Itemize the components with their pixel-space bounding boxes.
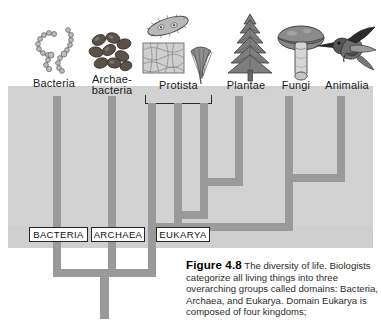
kingdom-label-plantae: Plantae <box>216 80 276 92</box>
kingdom-label-protista: Protista <box>145 80 212 92</box>
hummingbird-icon <box>314 24 378 78</box>
figure-root: Bacteria Archae- bacteria Protista Plant… <box>0 0 381 333</box>
protist-icon <box>142 12 220 84</box>
figure-number: Figure 4.8 <box>186 258 242 271</box>
limb-archaea-down <box>108 236 116 277</box>
kingdom-label-fungi: Fungi <box>272 80 320 92</box>
kingdom-label-bacteria: Bacteria <box>20 78 88 90</box>
limb-protist-2 <box>174 103 182 219</box>
domain-box-bacteria[interactable]: BACTERIA <box>29 227 88 242</box>
limb-node-opisthokont-down <box>285 174 293 231</box>
limb-plantae <box>235 96 243 186</box>
limb-fungi <box>285 96 293 182</box>
limb-bacteria-stem <box>53 96 61 277</box>
figure-caption: Figure 4.8 The diversity of life. Biolog… <box>186 259 379 318</box>
limb-archaea-stem <box>108 96 116 243</box>
root-trunk <box>100 269 109 319</box>
archaebacteria-cluster-icon <box>86 30 136 76</box>
conifer-tree-icon <box>222 12 278 82</box>
organism-illustration-row <box>0 0 381 88</box>
kingdom-label-animalia: Animalia <box>316 80 378 92</box>
limb-protist-3 <box>200 103 208 186</box>
domain-box-eukarya[interactable]: EUKARYA <box>156 227 210 242</box>
domain-box-archaea[interactable]: ARCHAEA <box>91 227 145 242</box>
kingdom-label-archaebacteria-line2: bacteria <box>83 85 141 97</box>
node-fungi-animalia <box>285 174 345 182</box>
limb-protist-1 <box>148 103 156 231</box>
bacteria-chain-icon <box>24 24 88 76</box>
limb-animalia <box>337 96 345 182</box>
